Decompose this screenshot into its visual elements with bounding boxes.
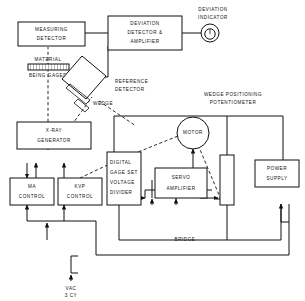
- block-ma-control: MA CONTROL: [10, 178, 54, 205]
- material-line-2: BEING GAGED: [29, 73, 67, 78]
- reference-detector-line-1: REFERENCE: [115, 79, 148, 84]
- digital-line-3: VOLTAGE: [110, 180, 135, 185]
- xray-line-1: X-RAY: [46, 128, 62, 133]
- xray-gage-block-diagram: MEASURING DETECTOR DEVIATION DETECTOR & …: [0, 0, 305, 301]
- material-line-1: MATERIAL: [34, 57, 61, 62]
- block-digital-gage-set: DIGITAL GAGE SET VOLTAGE DIVIDER: [107, 152, 141, 205]
- diagram-canvas: MEASURING DETECTOR DEVIATION DETECTOR & …: [0, 0, 305, 301]
- xray-line-2: GENERATOR: [37, 138, 71, 143]
- motor-label: MOTOR: [183, 130, 203, 135]
- vac-line-2: 3 CY: [65, 293, 77, 298]
- deviation-detector-line-2: DETECTOR &: [127, 30, 162, 35]
- measuring-detector-line-1: MEASURING: [35, 27, 68, 32]
- block-xray-generator: X-RAY GENERATOR: [17, 122, 91, 149]
- wedge-pot-line-1: WEDGE POSITIONING: [204, 92, 262, 97]
- block-measuring-detector: MEASURING DETECTOR: [18, 22, 85, 46]
- measuring-detector-line-2: DETECTOR: [37, 36, 67, 41]
- deviation-indicator-meter: DEVIATION INDICATOR: [198, 7, 228, 42]
- block-deviation-detector-amplifier: DEVIATION DETECTOR & AMPLIFIER: [108, 16, 182, 50]
- digital-line-4: DIVIDER: [110, 190, 133, 195]
- deviation-detector-line-1: DEVIATION: [130, 21, 159, 26]
- power-line-1: POWER: [267, 166, 287, 171]
- ma-line-2: CONTROL: [19, 194, 45, 199]
- bridge-label: BRIDGE: [175, 237, 196, 242]
- reference-detector-line-2: DETECTOR: [115, 87, 145, 92]
- reference-detector: REFERENCE DETECTOR: [62, 56, 148, 99]
- digital-line-1: DIGITAL: [110, 160, 131, 165]
- block-motor: MOTOR: [177, 117, 209, 149]
- block-kvp-control: KVP CONTROL: [58, 178, 102, 205]
- kvp-line-2: CONTROL: [67, 194, 93, 199]
- servo-line-1: SERVO: [172, 175, 191, 180]
- wire-bridge-lower-left: [119, 205, 281, 240]
- power-source-label: VAC 3 CY: [65, 286, 77, 298]
- vac-line-1: VAC: [66, 286, 77, 291]
- digital-line-2: GAGE SET: [110, 170, 138, 175]
- ma-line-1: MA: [28, 184, 36, 189]
- wedge-label: WEDGE: [93, 101, 113, 106]
- block-power-supply: POWER SUPPLY: [255, 160, 299, 187]
- wedge-pot-line-2: POTENTIOMETER: [210, 100, 257, 105]
- power-line-2: SUPPLY: [266, 176, 287, 181]
- block-servo-amplifier: SERVO AMPLIFIER: [155, 168, 207, 198]
- wedge-positioning-potentiometer: WEDGE POSITIONING POTENTIOMETER: [204, 92, 262, 205]
- kvp-line-1: KVP: [75, 184, 86, 189]
- servo-line-2: AMPLIFIER: [166, 186, 195, 191]
- material-being-gaged: MATERIAL BEING GAGED: [28, 57, 69, 78]
- deviation-detector-line-3: AMPLIFIER: [130, 39, 159, 44]
- deviation-indicator-line-1: DEVIATION: [198, 7, 227, 12]
- deviation-indicator-line-2: INDICATOR: [198, 15, 228, 20]
